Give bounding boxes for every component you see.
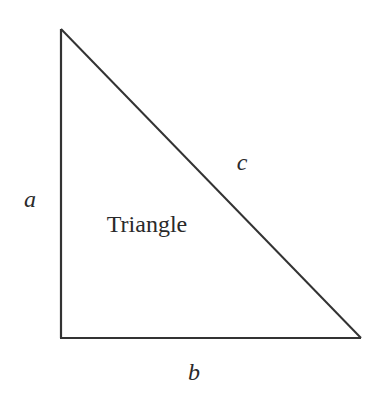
side-c-label: c [237, 149, 248, 175]
triangle-diagram: a c b Triangle [0, 0, 386, 394]
triangle-center-label: Triangle [107, 211, 187, 237]
side-a-label: a [24, 186, 36, 212]
side-b-label: b [188, 359, 200, 385]
triangle-figure: a c b Triangle [0, 0, 386, 394]
side-c-hypotenuse-line [61, 29, 361, 338]
